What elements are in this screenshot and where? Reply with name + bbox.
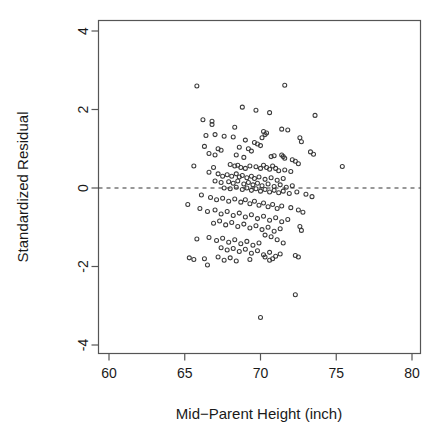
data-point (257, 203, 261, 207)
data-point (225, 210, 229, 214)
x-tick-label-60: 60 (101, 365, 117, 381)
data-point (255, 217, 259, 221)
data-point (286, 217, 290, 221)
data-point (242, 182, 246, 186)
data-point (296, 162, 300, 166)
data-point (280, 220, 284, 224)
data-point (245, 239, 249, 243)
data-point (254, 187, 258, 191)
data-point (255, 181, 259, 185)
data-point (233, 197, 237, 201)
data-point (277, 191, 281, 195)
data-point (248, 226, 252, 230)
data-point (218, 219, 222, 223)
data-point (219, 212, 223, 216)
data-point (304, 192, 308, 196)
data-point (213, 179, 217, 183)
data-point (245, 176, 249, 180)
data-point (289, 206, 293, 210)
plot-frame-box (99, 21, 421, 354)
data-point (212, 166, 216, 170)
data-point (248, 257, 252, 261)
data-point (262, 201, 266, 205)
data-point (202, 144, 206, 148)
data-point (313, 113, 317, 117)
data-point (277, 169, 281, 173)
data-point (228, 187, 232, 191)
data-point (249, 188, 253, 192)
data-point (248, 164, 252, 168)
data-point (234, 153, 238, 157)
data-point (255, 249, 259, 253)
data-point (212, 221, 216, 225)
data-point (243, 247, 247, 251)
y-tick-label-2: 2 (75, 105, 91, 113)
data-point (310, 195, 314, 199)
data-point (205, 263, 209, 267)
data-point (289, 170, 293, 174)
data-point (268, 250, 272, 254)
data-point (275, 178, 279, 182)
data-point (198, 206, 202, 210)
data-point (222, 258, 226, 262)
data-point (207, 170, 211, 174)
data-point (252, 199, 256, 203)
data-point (280, 204, 284, 208)
data-point (259, 316, 263, 320)
y-tick-label--2: -2 (75, 260, 91, 273)
data-point (260, 184, 264, 188)
data-point (243, 138, 247, 142)
data-point (248, 202, 252, 206)
data-point (242, 222, 246, 226)
data-point (249, 149, 253, 153)
x-tick-label-75: 75 (328, 365, 344, 381)
data-point (268, 111, 272, 115)
data-point (299, 140, 303, 144)
data-point (209, 195, 213, 199)
data-point (296, 208, 300, 212)
data-point (269, 176, 273, 180)
data-point (240, 105, 244, 109)
data-point (231, 213, 235, 217)
x-tick-label-80: 80 (404, 365, 420, 381)
data-point (234, 259, 238, 263)
data-point (251, 243, 255, 247)
data-point (280, 127, 284, 131)
data-point (278, 252, 282, 256)
data-point (221, 236, 225, 240)
scatter-plot-figure: 6065707580 420-2-4 Mid−Parent Height (in… (0, 0, 447, 443)
data-point (192, 164, 196, 168)
data-point (243, 198, 247, 202)
data-point (249, 251, 253, 255)
data-point (243, 215, 247, 219)
data-point (239, 166, 243, 170)
data-point (231, 135, 235, 139)
data-point (237, 250, 241, 254)
data-point (246, 181, 250, 185)
data-point (205, 210, 209, 214)
data-point (231, 181, 235, 185)
data-point (295, 190, 299, 194)
data-point (275, 206, 279, 210)
data-point (224, 223, 228, 227)
data-point (228, 162, 232, 166)
data-point (269, 235, 273, 239)
x-tick-label-65: 65 (177, 365, 193, 381)
data-point (230, 174, 234, 178)
data-point (242, 155, 246, 159)
data-point (271, 202, 275, 206)
x-tick-label-70: 70 (253, 365, 269, 381)
data-point (281, 241, 285, 245)
data-point (213, 153, 217, 157)
data-points-layer (186, 83, 345, 319)
data-point (263, 177, 267, 181)
data-point (233, 125, 237, 129)
data-point (213, 208, 217, 212)
data-point (274, 216, 278, 220)
data-point (236, 179, 240, 183)
y-axis-ticks (92, 31, 99, 345)
data-point (257, 175, 261, 179)
data-point (254, 108, 258, 112)
y-tick-label-4: 4 (75, 27, 91, 35)
data-point (251, 183, 255, 187)
